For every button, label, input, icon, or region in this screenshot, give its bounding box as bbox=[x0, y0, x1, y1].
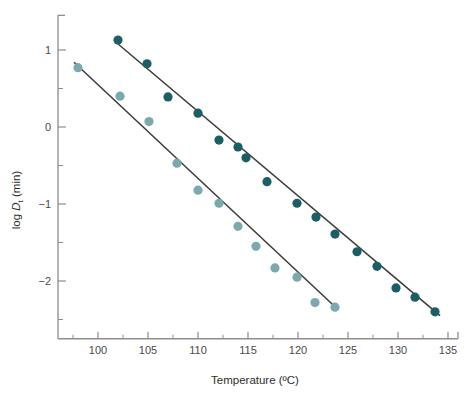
data-point-upper-series bbox=[292, 199, 301, 208]
y-axis-tick-label: 1 bbox=[45, 44, 51, 56]
data-point-upper-series bbox=[391, 283, 400, 292]
data-point-upper-series bbox=[163, 92, 172, 101]
x-axis-tick-label: 130 bbox=[389, 344, 407, 356]
data-point-lower-series bbox=[193, 186, 202, 195]
data-point-upper-series bbox=[241, 153, 250, 162]
x-axis-tick-label: 110 bbox=[189, 344, 207, 356]
x-axis-title-group: Temperature (ºC) bbox=[211, 374, 299, 386]
y-axis-tick-label: 0 bbox=[45, 121, 51, 133]
data-point-upper-series bbox=[113, 35, 122, 44]
x-axis-tick-label: 115 bbox=[239, 344, 257, 356]
data-point-lower-series bbox=[172, 159, 181, 168]
x-axis-tick-label: 135 bbox=[439, 344, 457, 356]
data-point-upper-series bbox=[214, 135, 223, 144]
data-point-lower-series bbox=[233, 222, 242, 231]
data-point-lower-series bbox=[270, 263, 279, 272]
data-point-lower-series bbox=[115, 92, 124, 101]
x-axis-tick-label: 100 bbox=[89, 344, 107, 356]
data-point-upper-series bbox=[330, 229, 339, 238]
plot-background bbox=[0, 0, 465, 401]
x-axis-tick-label: 105 bbox=[139, 344, 157, 356]
data-point-upper-series bbox=[193, 109, 202, 118]
data-point-upper-series bbox=[142, 59, 151, 68]
data-point-lower-series bbox=[330, 303, 339, 312]
data-point-upper-series bbox=[372, 262, 381, 271]
data-point-lower-series bbox=[251, 242, 260, 251]
x-axis-tick-label: 125 bbox=[339, 344, 357, 356]
data-point-upper-series bbox=[352, 247, 361, 256]
data-point-lower-series bbox=[214, 199, 223, 208]
data-point-lower-series bbox=[292, 273, 301, 282]
y-axis-tick-label: −2 bbox=[38, 275, 51, 287]
data-point-upper-series bbox=[410, 293, 419, 302]
data-point-upper-series bbox=[430, 307, 439, 316]
data-point-lower-series bbox=[73, 63, 82, 72]
x-axis-tick-label: 120 bbox=[289, 344, 307, 356]
data-point-lower-series bbox=[310, 298, 319, 307]
scatter-plot-svg: 100105110115120125130135 10−1−2 Temperat… bbox=[0, 0, 465, 401]
data-point-upper-series bbox=[262, 177, 271, 186]
x-axis-title: Temperature (ºC) bbox=[211, 374, 299, 386]
data-point-lower-series bbox=[144, 117, 153, 126]
y-axis-tick-label: −1 bbox=[38, 198, 51, 210]
data-point-upper-series bbox=[233, 142, 242, 151]
chart-figure: 100105110115120125130135 10−1−2 Temperat… bbox=[0, 0, 465, 401]
data-point-upper-series bbox=[311, 212, 320, 221]
